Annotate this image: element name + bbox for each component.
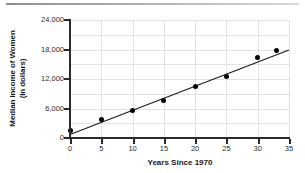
data-point: [224, 74, 229, 79]
y-tick-label: 24,000: [30, 16, 64, 24]
x-tick-label: 15: [153, 145, 175, 153]
y-axis-title-line1: Median Income of Women: [8, 30, 17, 126]
y-tick-label: 12,000: [30, 75, 64, 83]
x-tick-label: 30: [247, 145, 269, 153]
y-axis-title-line2: (in dollars): [17, 58, 26, 98]
data-point: [99, 117, 104, 122]
trend-line-segment: [70, 50, 289, 135]
x-tick-label: 5: [90, 145, 112, 153]
plot-area: [70, 20, 289, 138]
y-axis-line: [69, 19, 71, 139]
x-tick-label: 20: [184, 145, 206, 153]
y-tick-label: 0: [30, 134, 64, 142]
x-tick-label: 0: [59, 145, 81, 153]
y-tick-label: 18,000: [30, 46, 64, 54]
data-point: [255, 55, 260, 60]
x-tick-label: 35: [278, 145, 300, 153]
x-tick-label: 10: [122, 145, 144, 153]
gridline-vertical: [289, 20, 290, 138]
y-tick-label: 6,000: [30, 105, 64, 113]
x-tick-label: 25: [215, 145, 237, 153]
chart-figure: Median Income of Women (in dollars) 24,0…: [0, 0, 305, 173]
x-axis-title: Years Since 1970: [70, 158, 290, 167]
